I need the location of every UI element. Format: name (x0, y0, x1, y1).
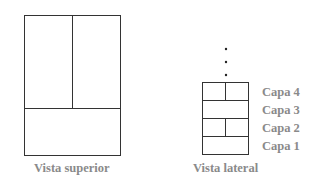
layer-label-3: Capa 3 (262, 103, 300, 118)
side-view-caption: Vista lateral (193, 161, 258, 176)
layer-label-2: Capa 2 (262, 121, 300, 136)
layer-label-1: Capa 1 (262, 139, 300, 154)
top-view-figure (25, 16, 121, 156)
continuation-dots-icon (225, 48, 227, 76)
side-view-figure (203, 83, 249, 155)
layer-label-4: Capa 4 (262, 85, 300, 100)
top-view-caption: Vista superior (34, 161, 110, 176)
